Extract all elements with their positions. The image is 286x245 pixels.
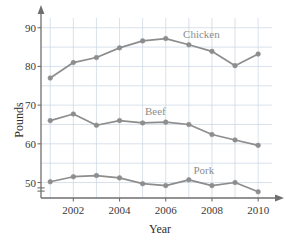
data-point [256, 143, 261, 148]
data-point [233, 180, 238, 185]
x-tick-label: 2006 [155, 204, 177, 216]
data-point [71, 112, 76, 117]
series-line-beef [50, 114, 258, 145]
data-point [187, 178, 192, 183]
x-tick-label: 2004 [109, 204, 131, 216]
x-axis-title: Year [149, 222, 171, 237]
data-point [256, 52, 261, 57]
data-point [187, 42, 192, 47]
data-point [48, 118, 53, 123]
line-chart: 5060708090 20022004200620082010 ChickenB… [0, 0, 286, 245]
data-point [233, 138, 238, 143]
data-point [163, 120, 168, 125]
data-point [163, 36, 168, 41]
series-line-chicken [50, 39, 258, 78]
x-tick-label: 2010 [247, 204, 269, 216]
axis-lines [37, 5, 284, 202]
y-tick-label: 60 [14, 138, 36, 150]
data-point [210, 49, 215, 54]
data-point [210, 132, 215, 137]
data-point [71, 174, 76, 179]
y-axis-title: Pounds [12, 102, 27, 137]
x-tick-label: 2002 [62, 204, 84, 216]
data-point [48, 76, 53, 81]
data-point [163, 183, 168, 188]
data-point [117, 176, 122, 181]
series-label-beef: Beef [145, 105, 166, 117]
data-point [94, 123, 99, 128]
data-point [187, 122, 192, 127]
data-point [94, 55, 99, 60]
y-tick-label: 90 [14, 22, 36, 34]
data-point [117, 118, 122, 123]
series-label-chicken: Chicken [183, 28, 220, 40]
data-point [140, 181, 145, 186]
series-line-pork [50, 176, 258, 192]
data-point [94, 173, 99, 178]
x-tick-label: 2008 [201, 204, 223, 216]
series-label-pork: Pork [193, 164, 214, 176]
y-tick-label: 50 [14, 177, 36, 189]
chart-canvas [0, 0, 286, 245]
data-point [233, 63, 238, 68]
data-point [140, 39, 145, 44]
data-point [117, 46, 122, 51]
data-point [210, 183, 215, 188]
data-point [256, 190, 261, 195]
data-point [48, 179, 53, 184]
data-point [140, 121, 145, 126]
y-tick-label: 80 [14, 60, 36, 72]
data-point [71, 60, 76, 65]
